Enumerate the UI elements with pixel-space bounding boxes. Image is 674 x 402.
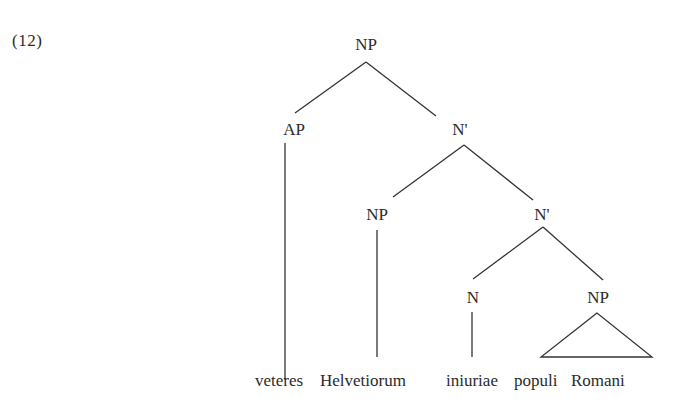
- np-triangle: [541, 313, 652, 357]
- node-n: N: [467, 288, 479, 308]
- leaf-word-romani: Romani: [571, 371, 625, 391]
- leaf-word-populi: populi: [514, 371, 557, 391]
- branch-nbar1-nbar2: [464, 145, 533, 200]
- branch-nbar1-np: [393, 145, 464, 197]
- leaf-word-veteres: veteres: [255, 371, 303, 391]
- tree-branches: [0, 0, 674, 402]
- branch-np-ap: [295, 62, 366, 113]
- node-nbar-1: N': [452, 120, 467, 140]
- branch-nbar2-n: [473, 227, 543, 279]
- leaf-word-helvetiorum: Helvetiorum: [320, 371, 406, 391]
- node-np-2: NP: [366, 205, 388, 225]
- leaf-word-iniuriae: iniuriae: [446, 371, 498, 391]
- branch-nbar2-np: [543, 227, 603, 280]
- node-np-3: NP: [587, 288, 609, 308]
- node-nbar-2: N': [534, 205, 549, 225]
- branch-np-nbar1: [366, 62, 436, 116]
- node-ap: AP: [283, 120, 305, 140]
- node-root-np: NP: [355, 35, 377, 55]
